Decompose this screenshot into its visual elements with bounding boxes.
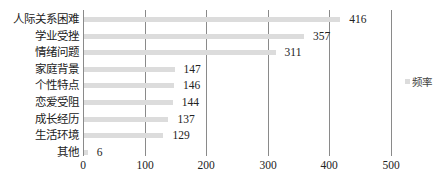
- x-tick-label: 200: [197, 158, 214, 172]
- value-label: 144: [182, 95, 199, 109]
- bar: [84, 83, 174, 88]
- value-label: 6: [97, 145, 103, 159]
- value-label: 357: [313, 29, 330, 43]
- x-tick-label: 300: [259, 158, 276, 172]
- bar: [84, 117, 168, 122]
- bar: [84, 17, 340, 22]
- legend-swatch-icon: [405, 79, 410, 84]
- category-label: 个性特点: [35, 78, 79, 92]
- bar: [84, 100, 173, 105]
- x-tick-label: 0: [80, 158, 86, 172]
- value-label: 416: [349, 12, 366, 26]
- category-label: 学业受挫: [35, 29, 79, 43]
- gridline: [268, 10, 269, 156]
- category-label: 生活环境: [35, 128, 79, 142]
- value-label: 137: [177, 112, 194, 126]
- gridline: [391, 10, 392, 156]
- bar-chart: 0100200300400500人际关系困难416学业受挫357情绪问题311家…: [0, 0, 439, 183]
- value-label: 311: [285, 45, 302, 59]
- category-label: 家庭背景: [35, 62, 79, 76]
- bar: [84, 150, 88, 155]
- x-tick-label: 500: [382, 158, 399, 172]
- legend: 频率: [405, 74, 432, 89]
- value-label: 146: [183, 78, 200, 92]
- category-label: 人际关系困难: [13, 12, 79, 26]
- bar: [84, 67, 175, 72]
- category-label: 成长经历: [35, 112, 79, 126]
- category-label: 恋爱受阻: [35, 95, 79, 109]
- legend-label: 频率: [412, 74, 432, 89]
- category-label: 情绪问题: [35, 45, 79, 59]
- gridline: [206, 10, 207, 156]
- category-label: 其他: [57, 145, 79, 159]
- bar: [84, 133, 163, 138]
- bar: [84, 50, 276, 55]
- x-tick-label: 100: [136, 158, 153, 172]
- value-label: 147: [184, 62, 201, 76]
- x-tick-label: 400: [320, 158, 337, 172]
- value-label: 129: [172, 128, 189, 142]
- bar: [84, 34, 304, 39]
